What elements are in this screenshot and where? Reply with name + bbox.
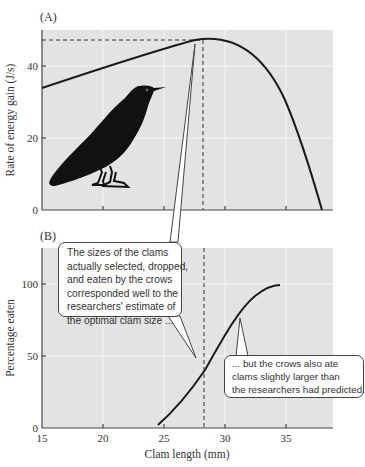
svg-text:20: 20: [98, 432, 110, 444]
callout-line: researchers' estimate of: [67, 300, 181, 314]
svg-text:35: 35: [281, 432, 293, 444]
callout-line: actually selected, dropped,: [67, 260, 181, 274]
x-tick-labels: 15 20 25 30 35: [37, 432, 293, 444]
callout-line: ... but the crows also ate: [232, 357, 363, 370]
x-axis-title: Clam length (mm): [145, 448, 230, 461]
panel-a-y-tick-labels: 40 20 0: [27, 60, 39, 216]
svg-text:20: 20: [27, 132, 39, 144]
svg-text:100: 100: [22, 278, 39, 290]
svg-text:40: 40: [27, 60, 39, 72]
svg-text:25: 25: [159, 432, 171, 444]
svg-text:50: 50: [27, 350, 39, 362]
svg-text:15: 15: [37, 432, 49, 444]
panel-b-y-tick-labels: 100 50 0: [22, 278, 39, 434]
callout-line: the researchers had predicted.: [232, 383, 363, 396]
panel-b-y-axis-title: Percentage eaten: [4, 299, 17, 377]
callout-larger-clams: ... but the crows also ate clams slightl…: [224, 355, 364, 398]
callout-line: the optimal clam size ...: [67, 314, 181, 328]
callout-optimal-size: The sizes of the clams actually selected…: [58, 242, 182, 317]
panel-b-label: (B): [40, 229, 56, 243]
callout-line: and eaten by the crows: [67, 273, 181, 287]
callout-line: corresponded well to the: [67, 287, 181, 301]
svg-text:0: 0: [33, 204, 39, 216]
callout-line: clams slightly larger than: [232, 370, 363, 383]
callout-line: The sizes of the clams: [67, 246, 181, 260]
svg-text:30: 30: [220, 432, 232, 444]
panel-a-y-axis-title: Rate of energy gain (J/s): [4, 63, 17, 176]
panel-a-label: (A): [40, 10, 57, 24]
